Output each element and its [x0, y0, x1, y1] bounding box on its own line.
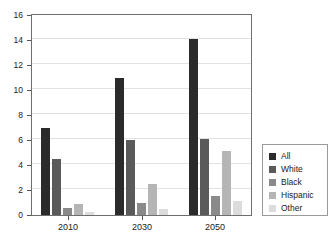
y-tick-mark	[27, 215, 31, 216]
bar-chart: 0246810121416 201020302050 AllWhiteBlack…	[0, 0, 333, 242]
y-tick-label: 12	[1, 61, 23, 69]
legend-item[interactable]: Other	[269, 202, 327, 214]
legend-swatch-icon	[269, 153, 276, 160]
y-tick-mark	[27, 15, 31, 16]
y-tick-mark	[27, 165, 31, 166]
y-tick-label: 16	[1, 11, 23, 19]
gridline	[32, 163, 251, 164]
y-tick-mark	[27, 190, 31, 191]
gridline	[32, 88, 251, 89]
y-tick-label: 14	[1, 36, 23, 44]
y-tick-mark	[27, 65, 31, 66]
plot-area	[31, 14, 252, 216]
legend-item[interactable]: Black	[269, 176, 327, 188]
y-tick-mark	[27, 40, 31, 41]
legend-item-label: White	[281, 165, 303, 174]
gridline	[32, 188, 251, 189]
y-tick-mark	[27, 115, 31, 116]
y-tick-label: 8	[1, 111, 23, 119]
legend-item[interactable]: All	[269, 150, 327, 162]
gridline	[32, 38, 251, 39]
legend-item-label: Hispanic	[281, 191, 314, 200]
legend-swatch-icon	[269, 192, 276, 199]
y-tick-label: 6	[1, 136, 23, 144]
legend-item-label: Black	[281, 178, 302, 187]
legend-swatch-icon	[269, 166, 276, 173]
x-tick-mark	[68, 216, 69, 220]
y-tick-label: 0	[1, 211, 23, 219]
x-tick-label: 2030	[112, 222, 172, 232]
gridline	[32, 63, 251, 64]
x-tick-mark	[142, 216, 143, 220]
x-tick-mark	[215, 216, 216, 220]
y-tick-label: 10	[1, 86, 23, 94]
y-tick-mark	[27, 140, 31, 141]
y-tick-label: 2	[1, 186, 23, 194]
legend-item-label: All	[281, 152, 290, 161]
x-tick-label: 2050	[185, 222, 245, 232]
chart-legend: AllWhiteBlackHispanicOther	[262, 144, 328, 216]
y-tick-label: 4	[1, 161, 23, 169]
legend-swatch-icon	[269, 205, 276, 212]
legend-swatch-icon	[269, 179, 276, 186]
legend-item-label: Other	[281, 204, 302, 213]
y-axis: 0246810121416	[0, 0, 31, 242]
gridline	[32, 113, 251, 114]
gridline	[32, 138, 251, 139]
legend-item[interactable]: Hispanic	[269, 189, 327, 201]
x-tick-label: 2010	[38, 222, 98, 232]
y-tick-mark	[27, 90, 31, 91]
legend-item[interactable]: White	[269, 163, 327, 175]
